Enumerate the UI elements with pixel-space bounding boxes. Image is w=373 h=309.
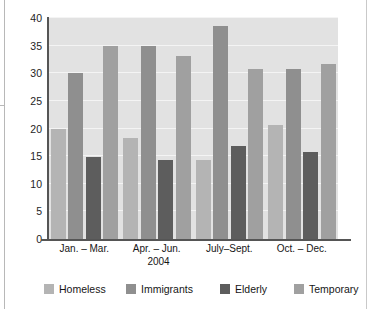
x-axis-label: Jan. – Mar.: [48, 243, 121, 254]
bar-elderly-4: [303, 152, 318, 239]
bar-temporary-2: [176, 56, 191, 239]
legend-item-homeless[interactable]: Homeless: [44, 283, 106, 295]
legend-label: Homeless: [59, 283, 106, 295]
bar-temporary-4: [321, 64, 336, 239]
bar-homeless-3: [196, 160, 211, 239]
bar-homeless-4: [268, 125, 283, 239]
y-axis-tick-label: 5: [2, 206, 42, 217]
bar-temporary-3: [248, 69, 263, 239]
x-axis-label: July–Sept.: [193, 243, 266, 254]
legend-item-immigrants[interactable]: Immigrants: [126, 283, 193, 295]
y-axis-tick-label: 25: [2, 96, 42, 107]
bar-immigrants-4: [286, 69, 301, 239]
y-axis-tick-label: 10: [2, 179, 42, 190]
bar-group: [48, 18, 121, 239]
legend-swatch-icon: [44, 284, 54, 294]
x-axis-title-text: 2004: [147, 256, 169, 267]
y-axis-tick-label: 35: [2, 41, 42, 52]
bar-immigrants-3: [213, 26, 228, 239]
legend-item-elderly[interactable]: Elderly: [220, 283, 267, 295]
y-axis-tick-label: 20: [2, 124, 42, 135]
bar-immigrants-2: [141, 46, 156, 239]
bar-temporary-1: [103, 46, 118, 239]
bar-elderly-1: [86, 157, 101, 239]
legend-swatch-icon: [220, 284, 230, 294]
x-axis-line: [41, 239, 351, 241]
bar-homeless-2: [123, 138, 138, 239]
plot-area: [48, 18, 338, 239]
bar-elderly-3: [231, 146, 246, 239]
legend-swatch-icon: [126, 284, 136, 294]
legend-label: Temporary: [309, 283, 359, 295]
y-axis-tick-label: 30: [2, 68, 42, 79]
x-axis-label: Oct. – Dec.: [266, 243, 339, 254]
y-axis-tick-label: 0: [2, 234, 42, 245]
bar-immigrants-1: [68, 73, 83, 239]
bar-chart: Percentage of Total Number 0510152025303…: [0, 0, 373, 309]
bar-group: [266, 18, 339, 239]
legend-label: Immigrants: [141, 283, 193, 295]
legend-swatch-icon: [294, 284, 304, 294]
bar-elderly-2: [158, 160, 173, 239]
y-axis-line: [47, 17, 49, 240]
bar-group: [121, 18, 194, 239]
legend-item-temporary[interactable]: Temporary: [294, 283, 359, 295]
x-axis-title: 2004: [0, 256, 373, 267]
bar-homeless-1: [51, 129, 66, 240]
legend-label: Elderly: [235, 283, 267, 295]
y-axis-tick-label: 40: [2, 13, 42, 24]
y-axis-tick-label: 15: [2, 151, 42, 162]
x-axis-label: Apr. – Jun.: [121, 243, 194, 254]
bar-group: [193, 18, 266, 239]
legend: HomelessImmigrantsElderlyTemporary: [44, 283, 354, 301]
